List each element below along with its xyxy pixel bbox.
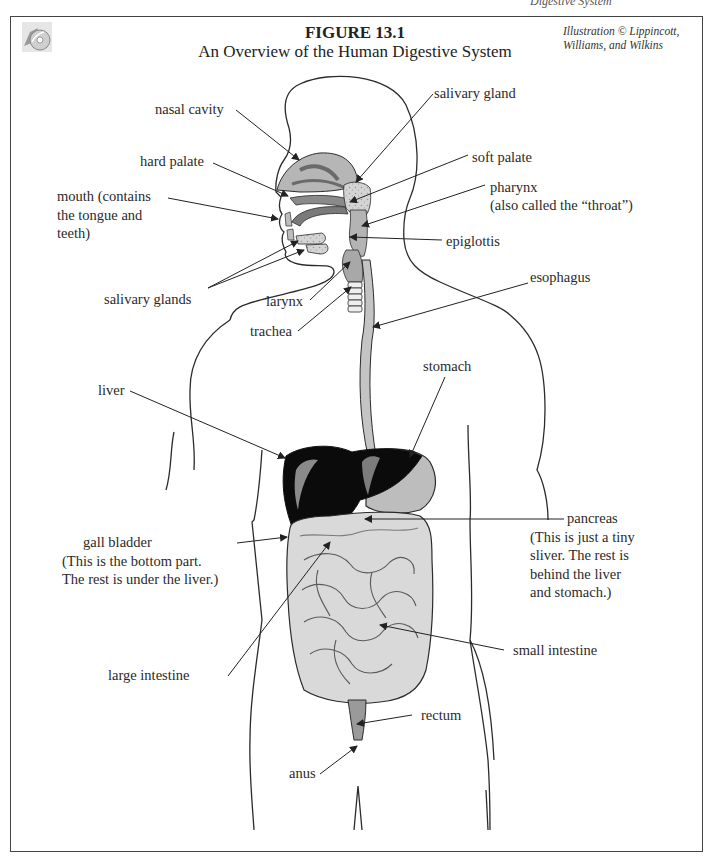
- label-pharynx-line-1: pharynx: [490, 178, 633, 196]
- label-pancreas-line-3: sliver. The rest is: [530, 546, 635, 565]
- label-large-intestine: large intestine: [108, 666, 189, 684]
- label-mouth-line-1: mouth (contains: [57, 187, 151, 206]
- label-hard-palate: hard palate: [140, 152, 204, 170]
- trachea-shape: [348, 282, 362, 312]
- label-gall-bladder-line-2: (This is the bottom part.: [62, 552, 218, 571]
- large-intestine-shape: [287, 512, 433, 703]
- esophagus-shape: [360, 260, 376, 456]
- label-gall-bladder: gall bladder (This is the bottom part. T…: [62, 533, 218, 589]
- teeth-shape: [285, 212, 294, 240]
- label-pancreas: pancreas (This is just a tiny sliver. Th…: [530, 509, 635, 602]
- label-mouth: mouth (contains the tongue and teeth): [57, 187, 151, 243]
- label-gall-bladder-line-3: The rest is under the liver.): [62, 570, 218, 589]
- label-epiglottis: epiglottis: [446, 232, 500, 250]
- label-rectum: rectum: [421, 706, 461, 724]
- label-pancreas-line-5: and stomach.): [530, 583, 635, 602]
- label-stomach: stomach: [423, 357, 471, 375]
- digestive-system-diagram: [0, 0, 710, 862]
- label-soft-palate: soft palate: [472, 148, 532, 166]
- label-mouth-line-2: the tongue and: [57, 206, 151, 225]
- label-trachea: trachea: [250, 322, 292, 340]
- tongue-shape: [292, 207, 348, 226]
- label-larynx: larynx: [266, 292, 303, 310]
- label-small-intestine: small intestine: [513, 641, 597, 659]
- pharynx-shape: [349, 210, 367, 256]
- label-pancreas-line-4: behind the liver: [530, 565, 635, 584]
- label-pharynx: pharynx (also called the “throat”): [490, 178, 633, 214]
- label-pancreas-line-1: pancreas: [530, 509, 635, 528]
- label-liver: liver: [98, 381, 125, 399]
- label-pancreas-line-2: (This is just a tiny: [530, 528, 635, 547]
- rectum-shape: [348, 700, 366, 740]
- label-anus: anus: [289, 764, 316, 782]
- label-gall-bladder-line-1: gall bladder: [62, 533, 218, 552]
- label-salivary-glands: salivary glands: [104, 290, 191, 308]
- label-esophagus: esophagus: [530, 268, 590, 286]
- sublingual-gland-shape: [296, 233, 325, 244]
- label-pharynx-line-2: (also called the “throat”): [490, 196, 633, 214]
- label-salivary-gland: salivary gland: [434, 84, 516, 102]
- label-mouth-line-3: teeth): [57, 224, 151, 243]
- label-nasal-cavity: nasal cavity: [155, 100, 224, 118]
- submandibular-gland-shape: [306, 244, 328, 254]
